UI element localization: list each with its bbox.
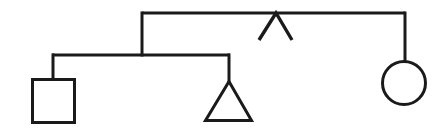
genogram-diagram — [0, 0, 447, 137]
female-circle-symbol — [383, 62, 426, 105]
caret-icon — [259, 13, 292, 40]
genogram-canvas-svg — [0, 0, 447, 137]
triangle-symbol — [206, 82, 252, 121]
connector-group — [52, 12, 405, 83]
male-square-symbol — [33, 80, 75, 123]
